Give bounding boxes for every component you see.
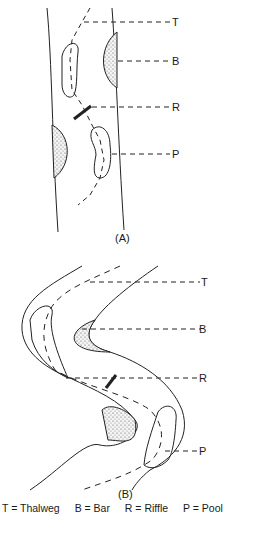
panel-b-label-b: B (199, 324, 206, 335)
panel-a-caption: (A) (115, 232, 130, 244)
cut-off-caption-text: … (2, 527, 264, 533)
panel-b-caption: (B) (118, 488, 133, 500)
panel-b-diagram (22, 266, 200, 490)
legend-item-pool: P = Pool (183, 502, 223, 514)
panel-a-label-t: T (172, 17, 179, 28)
legend: T = Thalweg B = Bar R = Riffle P = Pool (2, 502, 235, 514)
panel-b-label-r: R (199, 373, 207, 384)
panel-a-diagram (47, 8, 170, 232)
legend-item-bar: B = Bar (75, 502, 110, 514)
panel-b-label-t: T (201, 277, 208, 288)
legend-item-riffle: R = Riffle (125, 502, 168, 514)
legend-item-thalweg: T = Thalweg (2, 502, 60, 514)
stream-diagram (0, 0, 264, 533)
panel-a-label-b: B (172, 56, 179, 67)
panel-a-label-r: R (172, 102, 180, 113)
panel-a-label-p: P (172, 149, 179, 160)
panel-b-label-p: P (199, 446, 206, 457)
